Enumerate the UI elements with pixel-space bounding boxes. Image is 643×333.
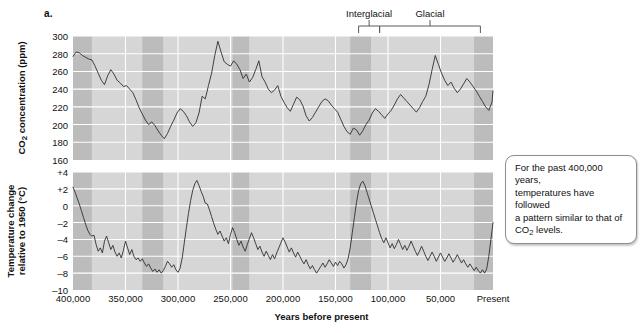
callout-box: For the past 400,000 years, temperatures…: [505, 155, 637, 244]
x-tick-label: 50,000: [426, 293, 455, 304]
callout-line-4-pre: CO: [515, 224, 529, 235]
x-tick-label: 200,000: [266, 293, 300, 304]
figure-root: a. InterglacialGlacial 16018020022024026…: [0, 0, 643, 333]
temperature-ytick-label: –8: [33, 268, 68, 279]
x-tick-label: Present: [477, 293, 510, 304]
x-tick-label: 400,000: [56, 293, 90, 304]
co2-axis-title-text: CO2 concentration (ppm): [16, 41, 27, 154]
temperature-ytick-label: 0: [33, 200, 68, 211]
x-tick-label: 300,000: [161, 293, 195, 304]
temperature-ytick-label: –2: [33, 217, 68, 228]
temperature-ytick-label: –6: [33, 251, 68, 262]
callout-line-3: a pattern similar to that of: [515, 212, 622, 223]
temperature-axis-title: Temperature changerelative to 1950 (°C): [5, 164, 27, 298]
x-axis-title: Years before present: [0, 311, 643, 322]
x-tick-label: 150,000: [318, 293, 352, 304]
callout-line-2: temperatures have followed: [515, 187, 594, 210]
callout-line-4-post: levels.: [533, 224, 563, 235]
callout-line-1: For the past 400,000 years,: [515, 162, 603, 185]
temperature-axis-title-text: Temperature changerelative to 1950 (°C): [5, 185, 27, 278]
x-tick-label: 350,000: [108, 293, 142, 304]
callout-subscript: 2: [529, 228, 533, 237]
x-tick-label: 250,000: [213, 293, 247, 304]
temperature-ytick-label: +2: [33, 183, 68, 194]
co2-axis-title: CO2 concentration (ppm): [16, 36, 28, 160]
temperature-ytick-label: –4: [33, 234, 68, 245]
x-tick-label: 100,000: [371, 293, 405, 304]
temperature-ytick-label: +4: [33, 167, 68, 178]
